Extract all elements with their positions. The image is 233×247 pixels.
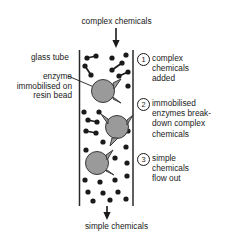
resin-bead-icon <box>92 79 122 103</box>
dot-molecule-icon <box>123 196 128 201</box>
enzyme-bioreactor-diagram: complex chemicals glass tube enzyme immo… <box>0 0 233 247</box>
dot-molecule-icon <box>124 173 129 178</box>
dot-molecule-icon <box>81 109 86 114</box>
dumbbell-molecule-icon <box>109 60 124 72</box>
dot-molecule-icon <box>107 197 112 202</box>
dot-molecule-icon <box>112 155 117 160</box>
dumbbell-molecule-icon <box>83 128 98 135</box>
dot-molecule-icon <box>90 198 95 203</box>
dot-molecule-icon <box>123 52 128 57</box>
resin-bead-icon <box>86 150 115 175</box>
dumbbell-molecule-icon <box>82 63 93 77</box>
arrow-out-icon <box>103 206 110 220</box>
dot-molecule-icon <box>83 147 88 152</box>
dot-molecule-icon <box>124 160 129 165</box>
dot-molecule-icon <box>96 109 101 114</box>
dot-molecule-icon <box>100 139 105 144</box>
dumbbell-molecule-icon <box>116 69 130 78</box>
dumbbell-molecule-icon <box>84 53 98 60</box>
dumbbell-molecule-icon <box>85 117 99 124</box>
dot-molecule-icon <box>112 177 117 182</box>
resin-bead-icon <box>101 114 133 146</box>
diagram-graphics <box>0 0 233 247</box>
dot-molecule-icon <box>85 189 90 194</box>
arrow-in-icon <box>112 28 119 48</box>
dot-molecule-icon <box>125 83 130 88</box>
dot-molecule-icon <box>109 55 114 60</box>
dot-molecule-icon <box>115 189 120 194</box>
dot-molecule-icon <box>123 144 128 149</box>
dot-molecule-icon <box>100 190 105 195</box>
dot-molecule-icon <box>97 179 102 184</box>
dot-molecule-icon <box>82 177 87 182</box>
